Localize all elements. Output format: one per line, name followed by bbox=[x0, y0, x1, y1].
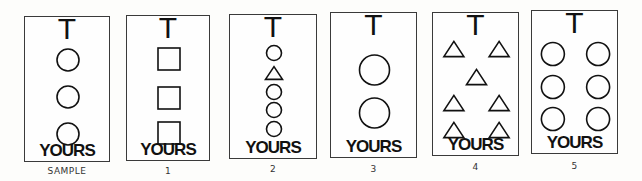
pattern-card-1: TYOURS bbox=[126, 15, 210, 161]
circle-shape bbox=[267, 103, 282, 118]
shape-layer bbox=[532, 11, 617, 153]
triangle-shape bbox=[489, 41, 509, 56]
circle-shape bbox=[360, 55, 390, 85]
circle-shape bbox=[267, 122, 282, 137]
pattern-card-3: TYOURS bbox=[330, 12, 417, 158]
yours-label: YOURS bbox=[127, 141, 209, 158]
shape-layer bbox=[127, 16, 209, 160]
card-caption: SAMPLE bbox=[22, 166, 112, 176]
yours-label: YOURS bbox=[433, 136, 518, 153]
circle-shape bbox=[267, 46, 282, 61]
card-caption: 1 bbox=[123, 166, 213, 176]
pattern-card-2: TYOURS bbox=[229, 14, 317, 159]
shape-layer bbox=[25, 17, 109, 161]
triangle-shape bbox=[444, 95, 464, 110]
yours-label: YOURS bbox=[230, 139, 316, 156]
pattern-card-sample: TYOURS bbox=[24, 16, 110, 162]
square-shape bbox=[158, 48, 180, 70]
circle-shape bbox=[587, 43, 610, 66]
triangle-shape bbox=[467, 69, 487, 84]
circle-shape bbox=[587, 108, 610, 131]
square-shape bbox=[158, 87, 180, 109]
circle-shape bbox=[587, 76, 610, 99]
circle-shape bbox=[267, 85, 282, 100]
shape-layer bbox=[331, 13, 416, 157]
shape-layer bbox=[433, 13, 518, 155]
circle-shape bbox=[541, 43, 564, 66]
yours-label: YOURS bbox=[532, 134, 617, 151]
circle-shape bbox=[57, 49, 79, 71]
circle-shape bbox=[541, 108, 564, 131]
yours-label: YOURS bbox=[25, 142, 109, 159]
circle-shape bbox=[57, 86, 79, 108]
shape-layer bbox=[230, 15, 316, 158]
circle-shape bbox=[541, 76, 564, 99]
triangle-shape bbox=[489, 95, 509, 110]
card-caption: 5 bbox=[530, 161, 620, 171]
pattern-card-5: TYOURS bbox=[531, 10, 618, 154]
circle-shape bbox=[360, 98, 390, 128]
triangle-shape bbox=[266, 67, 283, 80]
card-caption: 3 bbox=[329, 164, 419, 174]
card-caption: 4 bbox=[431, 162, 521, 172]
triangle-shape bbox=[444, 41, 464, 56]
card-caption: 2 bbox=[228, 164, 318, 174]
yours-label: YOURS bbox=[331, 138, 416, 155]
pattern-card-4: TYOURS bbox=[432, 12, 519, 156]
